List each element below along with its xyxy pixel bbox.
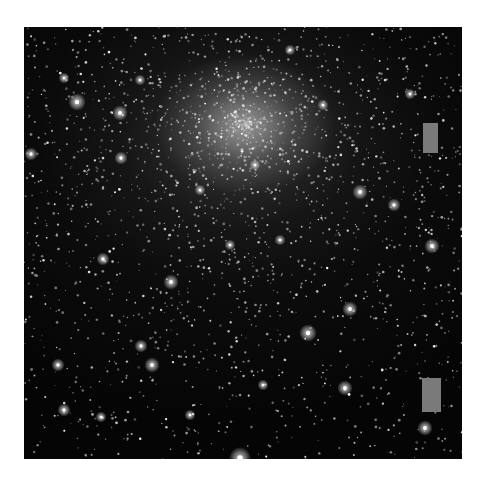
mask-upper-right [423, 123, 438, 153]
field-stars [24, 27, 462, 459]
star-field [24, 27, 462, 459]
star-cluster-image [24, 27, 462, 459]
mask-lower-right [422, 378, 441, 412]
